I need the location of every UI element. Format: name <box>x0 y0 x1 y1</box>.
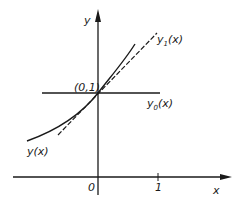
point-label: (0,1) <box>74 81 100 94</box>
y-axis-label: y <box>83 14 91 27</box>
diagram: y x 0 1 (0,1) y(x) y0(x) y1(x) <box>0 0 242 206</box>
x-axis-arrow-icon <box>220 174 232 180</box>
curve-y0-label: y0(x) <box>146 97 173 112</box>
curve-y1-label: y1(x) <box>156 33 183 48</box>
curve-y1 <box>58 33 157 135</box>
x-axis-label: x <box>212 184 220 197</box>
curve-y-label: y(x) <box>26 145 49 158</box>
origin-label: 0 <box>88 181 95 194</box>
y-axis-arrow-icon <box>95 9 101 22</box>
tick-1-label: 1 <box>155 181 162 194</box>
